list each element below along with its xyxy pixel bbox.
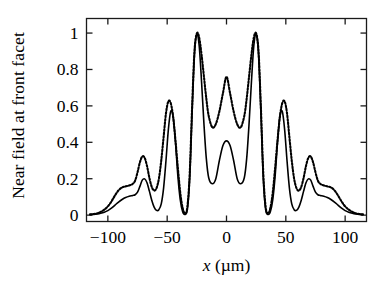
y-axis-tick-label: 1 <box>70 23 79 43</box>
y-axis-tick-label: 0 <box>70 205 79 225</box>
plot-frame <box>87 19 367 222</box>
plot-area: −100−5005010000.20.40.60.81 <box>0 0 387 290</box>
data-curves <box>90 33 363 215</box>
y-axis-tick-label: 0.4 <box>57 132 79 152</box>
y-axis-tick-label: 0.8 <box>57 59 79 79</box>
x-axis-tick-label: −50 <box>153 227 181 247</box>
y-axis-tick-label: 0.6 <box>57 96 79 116</box>
x-axis-tick-label: −100 <box>90 227 126 247</box>
series-line-dotted <box>90 33 363 215</box>
y-axis-tick-label: 0.2 <box>57 169 79 189</box>
x-axis-label: x (µm) <box>86 255 367 276</box>
x-axis-label-variable: x <box>203 255 211 275</box>
x-axis-tick-label: 50 <box>277 227 295 247</box>
x-axis-tick-label: 100 <box>332 227 359 247</box>
series-line-solid <box>90 34 363 215</box>
x-axis-tick-label: 0 <box>222 227 231 247</box>
near-field-chart-figure: Near field at front facet −100−500501000… <box>0 0 387 290</box>
